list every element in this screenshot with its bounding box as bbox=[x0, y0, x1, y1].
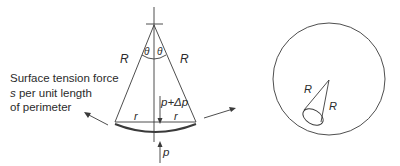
cone-radius-label-right: R bbox=[329, 101, 337, 112]
cone-base-ellipse bbox=[300, 105, 326, 128]
sphere-outline bbox=[273, 23, 385, 135]
theta-label-left: θ bbox=[144, 47, 149, 57]
surface-tension-description: Surface tension force s per unit length … bbox=[10, 71, 119, 115]
description-line-3: of perimeter bbox=[10, 100, 119, 115]
inner-pressure-arrowhead bbox=[158, 118, 163, 124]
description-line-1: Surface tension force bbox=[10, 71, 119, 86]
inner-pressure-label: p+Δp bbox=[161, 97, 188, 109]
half-chord-label-right: r bbox=[174, 111, 178, 122]
radius-line-left bbox=[115, 25, 154, 122]
bubble-surface-arc bbox=[115, 124, 196, 132]
surface-tension-arrowhead-right bbox=[229, 107, 236, 112]
half-chord-label-left: r bbox=[134, 111, 138, 122]
radius-label-right: R bbox=[180, 53, 189, 65]
surface-tension-arrow-left bbox=[87, 114, 108, 125]
radius-label-left: R bbox=[120, 53, 129, 65]
description-line-2: s per unit length bbox=[10, 86, 119, 101]
theta-label-right: θ bbox=[157, 47, 162, 57]
description-line-2-rest: per unit length bbox=[16, 87, 92, 99]
surface-tension-arrow-right bbox=[204, 109, 233, 118]
outer-pressure-label: p bbox=[163, 147, 169, 159]
outer-pressure-arrowhead bbox=[158, 141, 163, 147]
cone-radius-label-left: R bbox=[304, 84, 312, 95]
